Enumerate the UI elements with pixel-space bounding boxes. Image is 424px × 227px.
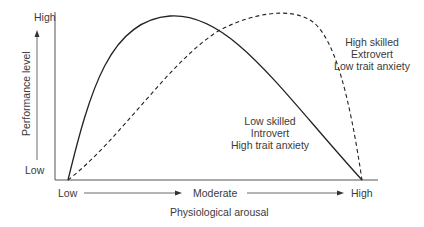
annotation-line: High skilled	[332, 36, 412, 48]
annotation-line: Extrovert	[332, 48, 412, 60]
annotation-line: High trait anxiety	[230, 139, 310, 151]
x-axis-high-label: High	[351, 187, 373, 199]
arrow-right-icon	[175, 191, 182, 196]
x-axis-title: Physiological arousal	[170, 206, 269, 218]
y-axis-title: Performance level	[20, 51, 32, 136]
y-axis-high-label: High	[34, 11, 56, 23]
x-axis-moderate-label: Moderate	[193, 187, 237, 199]
y-axis-low-label: Low	[25, 164, 44, 176]
annotation-low-skilled: Low skilled Introvert High trait anxiety	[230, 115, 310, 151]
annotation-line: Low trait anxiety	[332, 60, 412, 72]
annotation-line: Low skilled	[230, 115, 310, 127]
curve-high-skilled	[68, 13, 362, 180]
annotation-line: Introvert	[230, 127, 310, 139]
arrow-right-icon	[337, 191, 344, 196]
curve-low-skilled	[68, 16, 362, 180]
x-axis-low-label: Low	[58, 187, 77, 199]
arrow-up-icon	[35, 30, 40, 37]
annotation-high-skilled: High skilled Extrovert Low trait anxiety	[332, 36, 412, 72]
